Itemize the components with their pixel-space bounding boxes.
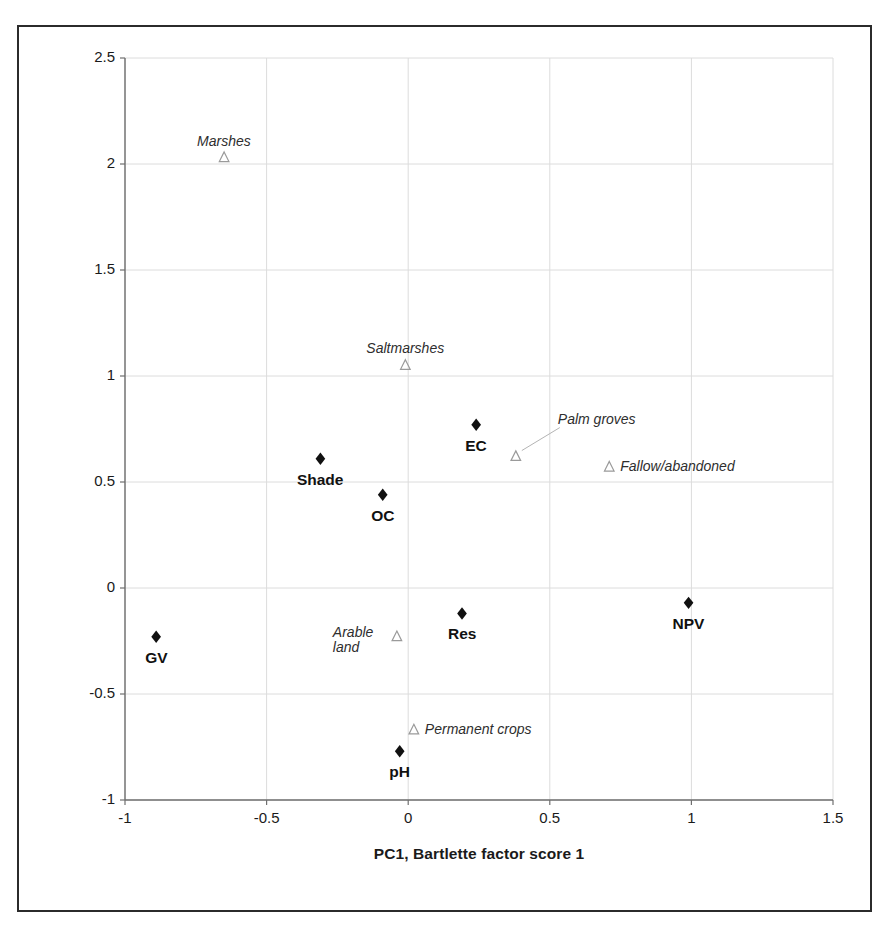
point-label-variable: GV: [145, 649, 167, 667]
point-label-variable: NPV: [673, 615, 705, 633]
marker-diamond: [395, 745, 405, 757]
y-tick-label: 1: [47, 366, 115, 383]
x-tick-label: 1: [651, 809, 731, 826]
point-label-variable: pH: [389, 763, 410, 781]
figure-root: PC2, Bartlette factor score 2 PC1, Bartl…: [0, 0, 881, 928]
point-label-cover: Arable land: [333, 625, 387, 655]
y-tick-label: 0.5: [47, 472, 115, 489]
y-tick-label: 0: [47, 578, 115, 595]
leader-lines: [522, 428, 560, 451]
marker-diamond: [684, 597, 694, 609]
marker-triangle: [401, 360, 411, 370]
y-tick-label: 2.5: [47, 48, 115, 65]
point-label-variable: OC: [371, 507, 394, 525]
label-leader-line: [522, 428, 560, 451]
marker-triangle: [219, 152, 229, 162]
y-tick-label: -0.5: [47, 684, 115, 701]
x-tick-label: -1: [85, 809, 165, 826]
plot-canvas: [125, 58, 833, 800]
marker-diamond: [316, 452, 326, 464]
plot-area: GVShadeOCECResNPVpHMarshesSaltmarshesPal…: [125, 58, 833, 800]
point-label-cover: Marshes: [197, 134, 251, 149]
marker-diamond: [378, 489, 388, 501]
point-label-cover: Permanent crops: [425, 722, 532, 737]
gridlines: [125, 58, 833, 800]
point-label-variable: EC: [465, 437, 487, 455]
y-tick-label: 2: [47, 154, 115, 171]
data-markers: [151, 152, 693, 758]
point-label-cover: Saltmarshes: [366, 341, 444, 356]
x-tick-label: 1.5: [793, 809, 873, 826]
x-tick-label: 0: [368, 809, 448, 826]
x-tick-label: 0.5: [510, 809, 590, 826]
marker-triangle: [604, 461, 614, 471]
axis-lines: [120, 58, 833, 805]
marker-diamond: [457, 607, 467, 619]
y-tick-label: -1: [47, 790, 115, 807]
point-label-variable: Res: [448, 625, 476, 643]
point-label-variable: Shade: [297, 471, 344, 489]
point-label-cover: Palm groves: [558, 412, 636, 427]
x-tick-label: -0.5: [227, 809, 307, 826]
marker-diamond: [151, 631, 161, 643]
point-label-cover: Fallow/abandoned: [620, 459, 734, 474]
marker-diamond: [471, 419, 481, 431]
marker-triangle: [392, 631, 402, 641]
x-axis-title: PC1, Bartlette factor score 1: [125, 845, 833, 863]
marker-triangle: [409, 724, 419, 734]
y-tick-label: 1.5: [47, 260, 115, 277]
marker-triangle: [511, 451, 521, 461]
